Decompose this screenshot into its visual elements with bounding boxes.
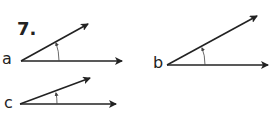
- angles-figure: [0, 0, 274, 125]
- angle-c: [20, 78, 116, 104]
- angle-a: [21, 24, 122, 61]
- angle-b: [167, 16, 268, 65]
